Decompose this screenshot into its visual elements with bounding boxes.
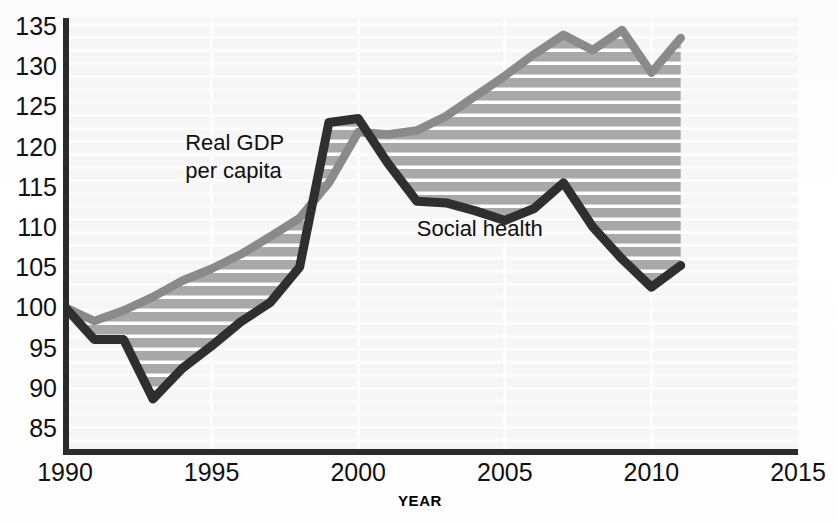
x-tick-2000: 2000	[330, 458, 386, 486]
y-tick-95: 95	[29, 334, 57, 362]
y-axis-tick-labels: 135 130 125 120 115 110 105 100 95 90 85	[15, 12, 57, 442]
y-tick-125: 125	[15, 92, 57, 120]
social-health-vs-gdp-line-chart: 135 130 125 120 115 110 105 100 95 90 85…	[0, 0, 838, 522]
y-tick-115: 115	[17, 173, 57, 201]
x-tick-2010: 2010	[624, 458, 680, 486]
x-axis-tick-labels: 1990 1995 2000 2005 2010 2015	[37, 458, 826, 486]
x-tick-1995: 1995	[184, 458, 240, 486]
y-tick-110: 110	[17, 213, 57, 241]
gdp-series-label-line2: per capita	[185, 158, 282, 183]
chart-page: 135 130 125 120 115 110 105 100 95 90 85…	[0, 0, 838, 522]
social-health-series-label-line1: Social health	[417, 216, 543, 241]
y-tick-130: 130	[15, 52, 57, 80]
x-axis-title: YEAR	[398, 492, 442, 509]
y-tick-120: 120	[15, 133, 57, 161]
x-tick-2005: 2005	[477, 458, 533, 486]
x-tick-2015: 2015	[770, 458, 826, 486]
y-tick-135: 135	[15, 12, 57, 40]
y-tick-105: 105	[15, 253, 57, 281]
y-tick-85: 85	[29, 414, 57, 442]
social-health-series-label: Social health	[417, 216, 543, 241]
y-tick-90: 90	[29, 374, 57, 402]
x-tick-1990: 1990	[37, 458, 93, 486]
gdp-series-label-line1: Real GDP	[185, 130, 284, 155]
y-tick-100: 100	[15, 293, 57, 321]
